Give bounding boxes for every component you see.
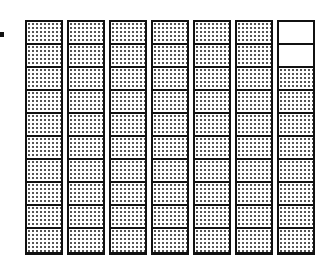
shaded-cell [279,68,313,91]
shaded-cell [195,183,229,206]
shaded-cell [27,137,61,160]
shaded-cell [27,22,61,45]
shaded-cell [69,183,103,206]
shaded-cell [111,22,145,45]
shaded-cell [111,206,145,229]
grid-column [25,20,63,255]
shaded-cell [279,137,313,160]
shaded-cell [111,68,145,91]
shaded-cell [279,91,313,114]
shaded-cell [237,22,271,45]
shaded-cell [27,160,61,183]
shaded-cell [237,229,271,252]
shaded-cell [237,68,271,91]
shaded-cell [195,91,229,114]
bullet-marker [0,32,4,37]
shaded-cell [195,137,229,160]
shaded-cell [69,22,103,45]
shaded-cell [153,22,187,45]
shaded-cell [195,68,229,91]
shaded-cell [279,114,313,137]
shaded-cell [279,206,313,229]
shaded-cell [237,45,271,68]
grid-column [235,20,273,255]
shaded-cell [111,114,145,137]
shaded-cell [195,114,229,137]
shaded-cell [153,45,187,68]
shaded-cell [195,206,229,229]
shaded-cell [237,114,271,137]
shaded-cell [27,45,61,68]
shaded-cell [237,206,271,229]
shaded-cell [111,183,145,206]
shaded-cell [195,45,229,68]
shaded-cell [111,45,145,68]
shaded-cell [69,206,103,229]
shaded-grid [25,20,315,255]
shaded-cell [153,91,187,114]
shaded-cell [153,229,187,252]
shaded-cell [153,114,187,137]
shaded-cell [111,137,145,160]
shaded-cell [153,206,187,229]
shaded-cell [27,206,61,229]
shaded-cell [27,114,61,137]
grid-column [277,20,315,255]
shaded-cell [237,91,271,114]
shaded-cell [111,160,145,183]
shaded-cell [69,229,103,252]
shaded-cell [195,160,229,183]
shaded-cell [69,91,103,114]
grid-column [67,20,105,255]
shaded-cell [279,160,313,183]
grid-column [151,20,189,255]
grid-column [109,20,147,255]
shaded-cell [111,229,145,252]
shaded-cell [69,68,103,91]
shaded-cell [153,183,187,206]
shaded-cell [153,68,187,91]
shaded-cell [279,229,313,252]
empty-cell [279,45,313,68]
shaded-cell [111,91,145,114]
shaded-cell [237,137,271,160]
empty-cell [279,22,313,45]
shaded-cell [69,160,103,183]
shaded-cell [279,183,313,206]
shaded-cell [69,137,103,160]
shaded-cell [153,160,187,183]
shaded-cell [237,160,271,183]
grid-column [193,20,231,255]
shaded-cell [27,91,61,114]
shaded-cell [195,229,229,252]
shaded-cell [237,183,271,206]
shaded-cell [27,229,61,252]
shaded-cell [69,114,103,137]
shaded-cell [27,68,61,91]
shaded-cell [153,137,187,160]
shaded-cell [27,183,61,206]
shaded-cell [69,45,103,68]
shaded-cell [195,22,229,45]
